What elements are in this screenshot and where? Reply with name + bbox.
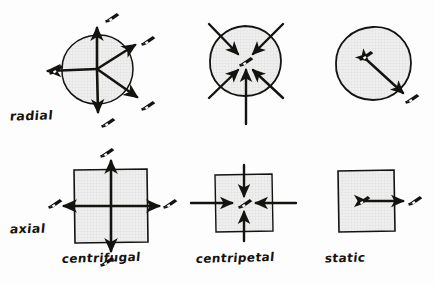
cell-axial-centripetal <box>191 165 296 241</box>
row-label-radial: radial <box>9 107 54 123</box>
camera-icon <box>140 101 155 111</box>
cell-radial-centrifugal <box>48 13 156 128</box>
arrow-down <box>97 69 98 112</box>
row-label-axial: axial <box>9 221 46 237</box>
camera-icon <box>99 148 114 158</box>
cell-radial-centripetal <box>209 24 283 124</box>
camera-icon <box>47 199 62 209</box>
camera-icon <box>404 94 419 104</box>
diagram-canvas: radial axial centrifugal centripetal sta… <box>0 0 435 283</box>
cell-axial-static <box>338 170 423 232</box>
camera-icon <box>140 36 155 46</box>
camera-icon <box>162 199 177 209</box>
column-label-centrifugal: centrifugal <box>61 250 141 266</box>
camera-icon <box>104 13 119 23</box>
sketch-svg <box>0 0 435 283</box>
camera-icon <box>407 196 422 206</box>
cell-radial-static <box>336 27 420 104</box>
column-label-static: static <box>324 250 366 265</box>
camera-icon <box>100 118 115 128</box>
cell-axial-centrifugal <box>47 148 177 267</box>
column-label-centripetal: centripetal <box>195 250 275 266</box>
